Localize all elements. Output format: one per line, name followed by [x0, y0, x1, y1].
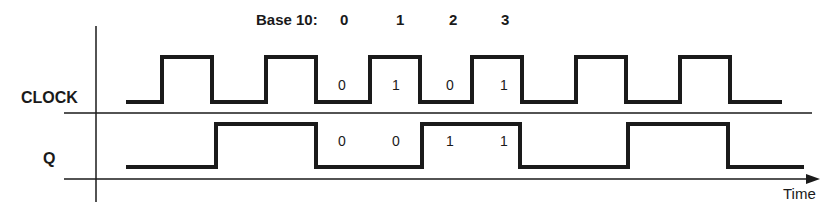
time-axis-arrow-icon: [806, 174, 820, 184]
clock-bit: 0: [446, 77, 454, 93]
clock-signal-label: CLOCK: [21, 89, 78, 107]
count-2: 2: [449, 11, 457, 28]
count-1: 1: [396, 11, 404, 28]
q-bit: 0: [338, 133, 346, 149]
timing-diagram: [0, 0, 836, 213]
clock-waveform: [126, 57, 782, 102]
q-waveform: [126, 124, 804, 167]
q-bit: 1: [446, 133, 454, 149]
q-signal-label: Q: [43, 150, 55, 168]
time-axis-label: Time: [783, 185, 816, 202]
base10-label: Base 10:: [256, 11, 318, 28]
q-bit: 0: [392, 133, 400, 149]
q-bit: 1: [500, 133, 508, 149]
clock-bit: 1: [392, 77, 400, 93]
clock-bit: 0: [338, 77, 346, 93]
clock-bit: 1: [500, 77, 508, 93]
count-0: 0: [340, 11, 348, 28]
count-3: 3: [501, 11, 509, 28]
